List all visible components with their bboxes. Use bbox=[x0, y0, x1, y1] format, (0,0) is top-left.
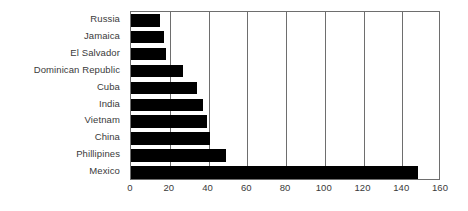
value-tick-label: 80 bbox=[280, 182, 291, 193]
bar-row bbox=[131, 63, 441, 80]
category-label: Dominican Republic bbox=[34, 62, 120, 79]
bar-row bbox=[131, 97, 441, 114]
category-label: China bbox=[95, 129, 120, 146]
category-label: Russia bbox=[90, 11, 120, 28]
bar-row bbox=[131, 29, 441, 46]
bar bbox=[131, 65, 183, 78]
category-label: India bbox=[99, 96, 120, 113]
bar-row bbox=[131, 130, 441, 147]
category-label: Phillipines bbox=[76, 146, 120, 163]
bar bbox=[131, 149, 226, 162]
bar-row bbox=[131, 113, 441, 130]
plot-area bbox=[130, 11, 440, 180]
bar-row bbox=[131, 46, 441, 63]
bars-layer bbox=[131, 12, 439, 179]
bar bbox=[131, 115, 207, 128]
value-axis: 020406080100120140160 bbox=[130, 182, 440, 200]
bar-row bbox=[131, 80, 441, 97]
value-tick-label: 60 bbox=[241, 182, 252, 193]
category-label: Jamaica bbox=[84, 28, 120, 45]
bar-row bbox=[131, 164, 441, 181]
category-label: Mexico bbox=[89, 163, 120, 180]
bar bbox=[131, 48, 166, 61]
bar bbox=[131, 132, 210, 145]
category-label: Cuba bbox=[97, 79, 120, 96]
bar-row bbox=[131, 147, 441, 164]
value-tick-label: 20 bbox=[163, 182, 174, 193]
value-tick-label: 0 bbox=[127, 182, 132, 193]
bar bbox=[131, 14, 160, 27]
bar bbox=[131, 82, 197, 95]
value-tick-label: 100 bbox=[316, 182, 332, 193]
bar bbox=[131, 31, 164, 44]
category-label: Vietnam bbox=[85, 112, 120, 129]
bar bbox=[131, 166, 418, 179]
category-axis: RussiaJamaicaEl SalvadorDominican Republ… bbox=[0, 11, 125, 180]
value-tick-label: 160 bbox=[432, 182, 448, 193]
value-tick-label: 120 bbox=[355, 182, 371, 193]
category-label: El Salvador bbox=[70, 45, 120, 62]
bar-chart: RussiaJamaicaEl SalvadorDominican Republ… bbox=[0, 0, 468, 211]
bar-row bbox=[131, 12, 441, 29]
value-tick-label: 140 bbox=[393, 182, 409, 193]
value-tick-label: 40 bbox=[202, 182, 213, 193]
bar bbox=[131, 99, 203, 112]
